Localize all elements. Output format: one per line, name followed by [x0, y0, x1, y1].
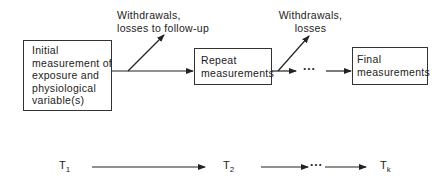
box-line: measurements: [201, 67, 271, 80]
box-line: Final: [357, 53, 427, 66]
timeline-label-t1: T1: [59, 159, 70, 174]
repeat-measurements-box: Repeat measurements: [194, 48, 272, 85]
box-line: Repeat: [201, 54, 271, 67]
final-measurements-box: Final measurements: [352, 47, 428, 85]
withdrawals-label-2: Withdrawals, losses: [278, 9, 343, 34]
box-line: measurement of: [32, 57, 111, 70]
label-line: losses: [278, 22, 343, 34]
box-line: Initial: [32, 44, 111, 57]
ellipsis: ···: [303, 63, 316, 75]
box-line: variable(s): [32, 94, 111, 107]
label-line: Withdrawals,: [117, 9, 209, 21]
label-line: losses to follow-up: [117, 22, 209, 34]
timeline-label-tk: Tk: [380, 159, 391, 174]
timeline-label-t2: T2: [223, 159, 234, 174]
timeline-ellipsis: ···: [310, 159, 323, 171]
box-line: exposure and: [32, 69, 111, 82]
arrow-withdrawals-1: [128, 35, 164, 71]
label-line: Withdrawals,: [278, 9, 343, 21]
withdrawals-label-1: Withdrawals, losses to follow-up: [117, 9, 209, 34]
box-line: measurements: [357, 66, 427, 79]
initial-measurement-box: Initial measurement of exposure and phys…: [23, 40, 112, 111]
box-line: physiological: [32, 82, 111, 95]
